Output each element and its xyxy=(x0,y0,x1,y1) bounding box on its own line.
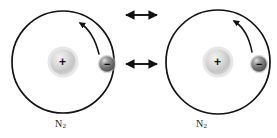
diagram-vector-layer xyxy=(0,0,277,138)
left-atom-label-subscript: 2 xyxy=(62,122,66,130)
right-orbit-arrow xyxy=(234,21,252,52)
right-electron-charge-sign: − xyxy=(256,59,262,70)
left-orbit-arrow xyxy=(80,23,99,54)
right-atom-label-subscript: 2 xyxy=(203,122,207,130)
interaction-arrows-group xyxy=(126,15,157,64)
right-atom-label: N2 xyxy=(196,118,207,130)
left-atom-label: N2 xyxy=(55,118,66,130)
right-nucleus-charge-sign: + xyxy=(214,56,221,68)
left-nucleus-charge-sign: + xyxy=(59,56,66,68)
left-electron-charge-sign: − xyxy=(104,59,110,70)
diagram-canvas: + − + − N2 N2 xyxy=(0,0,277,138)
